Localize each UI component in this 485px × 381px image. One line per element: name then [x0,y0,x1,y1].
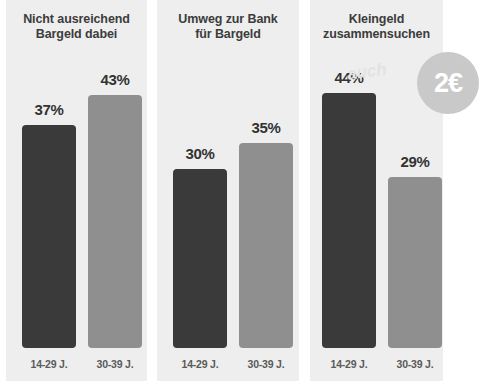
axis-label-14-29: 14-29 J. [318,358,380,370]
panel-title-line-1: Kleingeld [310,12,443,27]
bar-30-39 [239,143,293,348]
axis-label-30-39: 30-39 J. [84,358,146,370]
axis-label-14-29: 14-29 J. [169,358,231,370]
bar-14-29 [173,169,227,348]
bar-area: 44% 29% [310,60,443,348]
panel-title-line-1: Nicht ausreichend [6,12,147,27]
chart-panel-umweg-zur-bank: Umweg zur Bank für Bargeld 30% 35% 14-29… [157,0,299,381]
chart-panel-nicht-ausreichend-bargeld: Nicht ausreichend Bargeld dabei 37% 43% … [6,0,147,381]
bar-value-label: 35% [239,119,293,136]
panel-title-line-1: Umweg zur Bank [157,12,299,27]
bar-14-29 [322,93,376,348]
euro-badge-label: 2€ [434,70,462,97]
euro-badge: 2€ [417,52,479,114]
axis-label-30-39: 30-39 J. [384,358,446,370]
axis-label-14-29: 14-29 J. [18,358,80,370]
panel-title-line-2: Bargeld dabei [6,27,147,42]
bar-30-39 [88,95,142,348]
bar-area: 37% 43% [6,60,147,348]
panel-title: Umweg zur Bank für Bargeld [157,12,299,42]
bar-value-label: 29% [388,153,442,170]
bar-14-29 [22,125,76,348]
panel-title-line-2: zusammensuchen [310,27,443,42]
panel-title: Kleingeld zusammensuchen [310,12,443,42]
bar-area: 30% 35% [157,60,299,348]
chart-panel-kleingeld-zusammensuchen: Kleingeld zusammensuchen auch 44% 29% 14… [310,0,443,381]
panel-title: Nicht ausreichend Bargeld dabei [6,12,147,42]
axis-label-30-39: 30-39 J. [235,358,297,370]
grouped-bar-chart: Nicht ausreichend Bargeld dabei 37% 43% … [0,0,485,381]
panel-title-line-2: für Bargeld [157,27,299,42]
bar-value-label: 43% [88,71,142,88]
bar-30-39 [388,177,442,348]
bar-value-label: 37% [22,101,76,118]
bar-value-label: 30% [173,145,227,162]
